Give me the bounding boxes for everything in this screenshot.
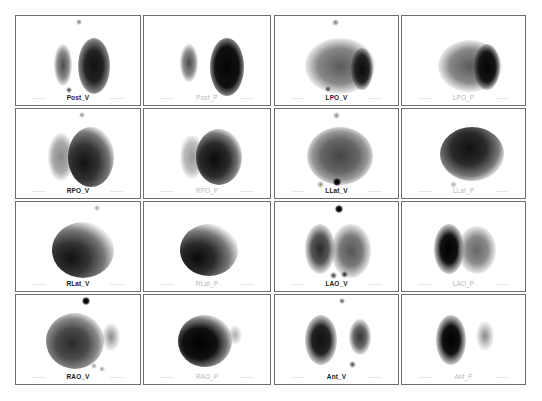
view-label: Ant_V bbox=[275, 373, 398, 380]
right-lung-uptake bbox=[351, 48, 373, 90]
scan-panel-ant-v[interactable]: Ant_V bbox=[274, 294, 399, 385]
scan-panel-lao-v[interactable]: LAO_V bbox=[274, 201, 399, 292]
right-lung-uptake bbox=[102, 323, 120, 351]
scan-panel-llat-p[interactable]: LLat_P bbox=[401, 108, 526, 199]
scan-panel-ant-p[interactable]: Ant_P bbox=[401, 294, 526, 385]
scan-panel-rpo-p[interactable]: RPO_P bbox=[143, 108, 271, 199]
view-label: LPO_V bbox=[275, 94, 398, 101]
lung-uptake bbox=[180, 224, 238, 276]
scan-panel-lpo-v[interactable]: LPO_V bbox=[274, 15, 399, 106]
view-label: LAO_P bbox=[402, 280, 525, 287]
left-lung-uptake bbox=[305, 315, 337, 365]
marker-dot bbox=[333, 178, 341, 186]
right-lung-uptake bbox=[68, 127, 114, 187]
marker-dot bbox=[99, 366, 105, 372]
marker-dot bbox=[335, 205, 343, 213]
marker-dot bbox=[339, 298, 345, 304]
right-lung-uptake bbox=[349, 319, 371, 355]
view-label: RLat_V bbox=[16, 280, 140, 287]
right-lung-uptake bbox=[196, 129, 242, 185]
view-label: LAO_V bbox=[275, 280, 398, 287]
view-label: RPO_V bbox=[16, 187, 140, 194]
marker-dot bbox=[325, 86, 331, 92]
view-label: Ant_P bbox=[402, 373, 525, 380]
right-lung-uptake bbox=[210, 38, 244, 96]
left-lung-uptake bbox=[436, 315, 466, 365]
lung-uptake bbox=[440, 127, 504, 181]
right-lung-uptake bbox=[476, 321, 494, 351]
view-label: RLat_P bbox=[144, 280, 270, 287]
marker-dot bbox=[349, 361, 356, 368]
scan-panel-rlat-p[interactable]: RLat_P bbox=[143, 201, 271, 292]
marker-dot bbox=[330, 272, 337, 279]
scan-panel-rao-p[interactable]: RAO_P bbox=[143, 294, 271, 385]
marker-dot bbox=[82, 297, 90, 305]
right-lung-uptake bbox=[458, 226, 496, 274]
marker-dot bbox=[332, 19, 339, 26]
lung-uptake bbox=[52, 222, 114, 278]
scan-panel-lao-p[interactable]: LAO_P bbox=[401, 201, 526, 292]
scan-panel-post-p[interactable]: Post_P bbox=[143, 15, 271, 106]
scan-panel-rlat-v[interactable]: RLat_V bbox=[15, 201, 141, 292]
lung-uptake bbox=[307, 127, 373, 185]
scan-panel-post-v[interactable]: Post_V bbox=[15, 15, 141, 106]
marker-dot bbox=[341, 271, 348, 278]
scan-panel-lpo-p[interactable]: LPO_P bbox=[401, 15, 526, 106]
left-lung-uptake bbox=[180, 44, 198, 82]
scan-panel-rao-v[interactable]: RAO_V bbox=[15, 294, 141, 385]
view-label: Post_V bbox=[16, 94, 140, 101]
view-label: RAO_P bbox=[144, 373, 270, 380]
marker-dot bbox=[333, 112, 340, 119]
marker-dot bbox=[66, 87, 72, 93]
view-label: LLat_P bbox=[402, 187, 525, 194]
marker-dot bbox=[79, 112, 85, 118]
right-lung-uptake bbox=[474, 44, 500, 90]
lung-uptake bbox=[46, 313, 104, 369]
scan-panel-rpo-v[interactable]: RPO_V bbox=[15, 108, 141, 199]
view-label: Post_P bbox=[144, 94, 270, 101]
lung-uptake bbox=[178, 315, 232, 367]
view-label: RAO_V bbox=[16, 373, 140, 380]
view-label: RPO_P bbox=[144, 187, 270, 194]
right-lung-uptake bbox=[331, 224, 371, 278]
marker-dot bbox=[76, 19, 82, 25]
left-lung-uptake bbox=[54, 44, 72, 86]
scan-panel-llat-v[interactable]: LLat_V bbox=[274, 108, 399, 199]
marker-dot bbox=[91, 363, 97, 369]
right-lung-uptake bbox=[228, 325, 242, 345]
marker-dot bbox=[94, 205, 100, 211]
view-label: LPO_P bbox=[402, 94, 525, 101]
right-lung-uptake bbox=[78, 38, 110, 94]
view-label: LLat_V bbox=[275, 187, 398, 194]
